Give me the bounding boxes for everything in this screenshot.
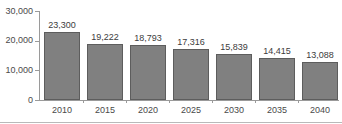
x-axis-tick-mark bbox=[255, 100, 256, 103]
x-axis-label-2010: 2010 bbox=[38, 105, 86, 115]
bar-2025[interactable] bbox=[173, 49, 209, 100]
y-axis-tick-text: 30,000 bbox=[0, 7, 33, 16]
bar-value-label-2025: 17,316 bbox=[167, 38, 215, 47]
bottom-divider bbox=[0, 122, 342, 123]
bar-2035[interactable] bbox=[259, 58, 295, 100]
x-axis-tick-mark bbox=[83, 100, 84, 103]
x-axis-label-2035: 2035 bbox=[253, 105, 301, 115]
bar-2010[interactable] bbox=[44, 32, 80, 100]
bar-2015[interactable] bbox=[87, 44, 123, 100]
bar-value-label-2030: 15,839 bbox=[210, 43, 258, 52]
bar-2040[interactable] bbox=[302, 62, 338, 100]
x-axis-tick-mark bbox=[169, 100, 170, 103]
bar-value-label-2040: 13,088 bbox=[296, 51, 342, 60]
x-axis-line bbox=[39, 100, 339, 101]
x-axis-label-2040: 2040 bbox=[296, 105, 342, 115]
x-axis-tick-mark bbox=[298, 100, 299, 103]
y-axis-tick-label-20000: 20,000 bbox=[0, 36, 33, 45]
bar-chart: 30,000 20,000 10,000 0 23,300 19,222 18,… bbox=[0, 0, 342, 124]
y-axis-tick-text: 10,000 bbox=[0, 66, 33, 75]
bar-value-label-2020: 18,793 bbox=[124, 34, 172, 43]
bar-2020[interactable] bbox=[130, 45, 166, 100]
x-axis-label-2025: 2025 bbox=[167, 105, 215, 115]
x-axis-label-2015: 2015 bbox=[81, 105, 129, 115]
x-axis-tick-mark bbox=[126, 100, 127, 103]
bar-2030[interactable] bbox=[216, 54, 252, 101]
y-axis-tick-label-0: 0 bbox=[0, 96, 33, 105]
bar-value-label-2010: 23,300 bbox=[38, 21, 86, 30]
y-axis-tick-text: 0 bbox=[0, 96, 33, 105]
bar-value-label-2035: 14,415 bbox=[253, 47, 301, 56]
y-axis-tick-label-30000: 30,000 bbox=[0, 7, 33, 16]
y-axis-tick-text: 20,000 bbox=[0, 36, 33, 45]
x-axis-label-2030: 2030 bbox=[210, 105, 258, 115]
x-axis-label-2020: 2020 bbox=[124, 105, 172, 115]
bar-value-label-2015: 19,222 bbox=[81, 33, 129, 42]
y-axis-tick-label-10000: 10,000 bbox=[0, 66, 33, 75]
x-axis-tick-mark bbox=[212, 100, 213, 103]
